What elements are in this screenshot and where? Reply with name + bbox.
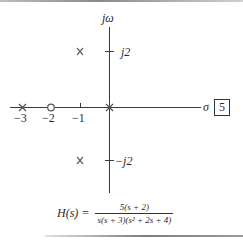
x-tick-label-minus-1: −1 [72,112,85,124]
x-tick-label-minus-3: −3 [14,112,27,124]
jomega-axis-label: jω [102,12,114,24]
figure-number-box: 5 [214,99,230,116]
transfer-function-fraction: 5(s + 2) s(s + 3)(s² + 2s + 4) [95,202,173,225]
transfer-function-numerator: 5(s + 2) [118,202,151,213]
y-tick-label-minus-j2: −j2 [115,155,132,167]
sigma-axis-label: σ [203,101,209,113]
pole-x-icon [77,48,83,55]
transfer-function: H(s) = 5(s + 2) s(s + 3)(s² + 2s + 4) [57,202,173,225]
x-tick-label-minus-2: −2 [42,112,55,124]
zero-circle-icon [48,104,55,111]
transfer-function-lhs: H(s) = [57,206,89,221]
y-tick-label-j2: j2 [121,46,130,58]
transfer-function-denominator: s(s + 3)(s² + 2s + 4) [95,213,173,225]
pole-x-icon [77,157,83,164]
bottom-border-rule [45,235,243,237]
